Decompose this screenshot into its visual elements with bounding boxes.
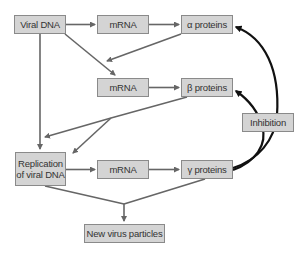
arrow-viral-dna-to-mrna-mid — [65, 34, 115, 75]
node-mrna-top: mRNA — [97, 15, 149, 34]
node-label: Inhibition — [250, 117, 286, 128]
node-label: mRNA — [109, 19, 136, 30]
line-beta-to-junction — [111, 97, 187, 118]
node-label: γ proteins — [187, 164, 226, 175]
node-alpha-proteins: α proteins — [181, 15, 233, 34]
line-gamma-to-junction — [124, 179, 205, 204]
node-replication: Replication of viral DNA — [15, 152, 66, 186]
node-label: New virus particles — [87, 228, 163, 239]
node-mrna-lower: mRNA — [97, 160, 149, 179]
node-label: α proteins — [187, 19, 227, 30]
node-label-line2: of viral DNA — [16, 169, 64, 180]
arrow-alpha-to-mrna-mid — [107, 34, 181, 61]
node-label-line1: Replication — [18, 158, 63, 169]
inhibition-curve-to-alpha — [233, 27, 277, 168]
node-new-virus-particles: New virus particles — [84, 224, 165, 243]
node-viral-dna: Viral DNA — [14, 15, 66, 34]
node-mrna-mid: mRNA — [97, 78, 149, 97]
node-label: β proteins — [187, 82, 227, 93]
node-label: mRNA — [109, 82, 136, 93]
node-beta-proteins: β proteins — [181, 78, 233, 97]
node-gamma-proteins: γ proteins — [181, 160, 233, 179]
node-label: mRNA — [109, 164, 136, 175]
node-inhibition: Inhibition — [242, 113, 294, 132]
line-replication-to-junction — [45, 186, 124, 204]
node-label: Viral DNA — [20, 19, 60, 30]
